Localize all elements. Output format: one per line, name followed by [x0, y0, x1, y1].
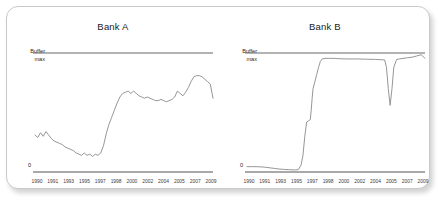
panel-bank-b: Bank B Buffer max 0 19901991199319951997… — [219, 7, 431, 190]
x-tick-label: 1990 — [244, 179, 255, 184]
panel-bank-a: Bank A Buffer max 0 19901991199319951997… — [7, 7, 219, 190]
x-tick-label: 2007 — [190, 179, 201, 184]
x-tick-label: 2002 — [142, 179, 153, 184]
x-tick-label: 1991 — [47, 179, 58, 184]
x-axis-ticks-bank-a: 1990199119931995199719982000200220042005… — [7, 179, 219, 189]
chart-plot-bank-b — [219, 7, 431, 190]
x-tick-label: 1990 — [32, 179, 43, 184]
x-tick-label: 2002 — [354, 179, 365, 184]
x-tick-label: 1997 — [95, 179, 106, 184]
x-axis-ticks-bank-b: 1990199119931995199719982000200220042005… — [219, 179, 431, 189]
x-tick-label: 1995 — [79, 179, 90, 184]
chart-card: Bank A Buffer max 0 19901991199319951997… — [6, 6, 430, 189]
x-tick-label: 2005 — [386, 179, 397, 184]
x-tick-label: 2007 — [402, 179, 413, 184]
x-tick-label: 1997 — [307, 179, 318, 184]
x-tick-label: 2000 — [338, 179, 349, 184]
x-tick-label: 2004 — [158, 179, 169, 184]
chart-plot-bank-a — [7, 7, 219, 190]
x-tick-label: 1998 — [323, 179, 334, 184]
x-tick-label: 1993 — [63, 179, 74, 184]
x-tick-label: 2009 — [206, 179, 217, 184]
x-tick-label: 2004 — [370, 179, 381, 184]
x-tick-label: 2005 — [174, 179, 185, 184]
x-tick-label: 1995 — [291, 179, 302, 184]
x-tick-label: 1993 — [275, 179, 286, 184]
x-tick-label: 2000 — [126, 179, 137, 184]
x-tick-label: 1998 — [111, 179, 122, 184]
x-tick-label: 1991 — [259, 179, 270, 184]
x-tick-label: 2009 — [418, 179, 429, 184]
